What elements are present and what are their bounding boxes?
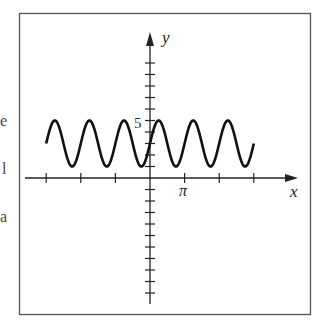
sine-graph: x y π 5 <box>0 0 328 323</box>
y-tick-label-5: 5 <box>134 115 142 131</box>
x-axis-label: x <box>289 182 298 201</box>
x-axis-arrow-icon <box>285 174 298 182</box>
plot-frame <box>20 14 311 315</box>
y-axis-label: y <box>160 28 170 47</box>
x-tick-label-pi: π <box>179 182 188 199</box>
axes <box>25 32 298 304</box>
y-axis-arrow-icon <box>146 32 154 46</box>
